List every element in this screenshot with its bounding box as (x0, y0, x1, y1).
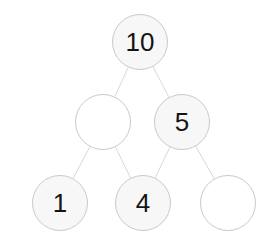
tree-edge (153, 67, 169, 97)
tree-diagram-canvas: 10514 (0, 0, 274, 252)
tree-node-label: 5 (175, 109, 189, 135)
tree-edge (155, 147, 170, 178)
tree-node-leaf-one[interactable]: 1 (32, 175, 88, 231)
tree-edge (115, 67, 129, 96)
tree-node-label: 4 (136, 190, 150, 216)
tree-node-label: 1 (53, 190, 67, 216)
tree-edge (196, 146, 214, 178)
tree-node-mid-right[interactable]: 5 (154, 94, 210, 150)
tree-node-mid-left[interactable] (75, 94, 131, 150)
tree-edge (73, 147, 90, 179)
tree-edge (115, 147, 130, 178)
tree-node-leaf-four[interactable]: 4 (115, 175, 171, 231)
tree-node-label: 10 (126, 29, 155, 55)
tree-node-leaf-empty[interactable] (200, 175, 256, 231)
tree-node-root[interactable]: 10 (112, 14, 168, 70)
